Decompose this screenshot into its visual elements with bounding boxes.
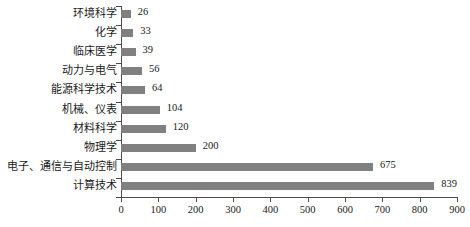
bar <box>121 163 373 171</box>
category-label: 材料科学 <box>0 121 121 135</box>
x-axis-tick-label: 200 <box>176 203 216 217</box>
category-label: 能源科学技术 <box>0 82 121 96</box>
bar-row: 64能源科学技术 <box>121 82 457 101</box>
y-axis-tick <box>116 121 121 122</box>
y-axis-tick <box>116 44 121 45</box>
x-axis-tick <box>345 198 346 202</box>
bar <box>121 29 133 37</box>
x-axis-tick <box>382 198 383 202</box>
bar-value-label: 120 <box>173 120 189 134</box>
x-axis-tick <box>121 198 122 202</box>
bar-row: 839计算技术 <box>121 178 457 197</box>
bar <box>121 106 160 114</box>
bar-row: 39临床医学 <box>121 44 457 63</box>
bar <box>121 48 136 56</box>
y-axis-tick <box>116 178 121 179</box>
y-axis-tick <box>116 102 121 103</box>
category-label: 化学 <box>0 25 121 39</box>
category-label: 计算技术 <box>0 178 121 192</box>
category-label: 电子、通信与自动控制 <box>0 159 121 173</box>
bar <box>121 144 196 152</box>
bar-row: 120材料科学 <box>121 121 457 140</box>
x-axis-tick <box>233 198 234 202</box>
x-axis-tick <box>270 198 271 202</box>
category-label: 环境科学 <box>0 6 121 20</box>
bar-row: 56动力与电气 <box>121 63 457 82</box>
bar <box>121 125 166 133</box>
y-axis-tick <box>116 6 121 7</box>
bar <box>121 67 142 75</box>
x-axis-tick <box>420 198 421 202</box>
bar <box>121 86 145 94</box>
x-axis-tick-label: 500 <box>288 203 328 217</box>
bar-value-label: 64 <box>152 81 163 95</box>
bar-row: 104机械、仪表 <box>121 102 457 121</box>
bar-row: 200物理学 <box>121 140 457 159</box>
x-axis-tick-label: 100 <box>138 203 178 217</box>
bar-value-label: 675 <box>380 158 396 172</box>
bar-row: 33化学 <box>121 25 457 44</box>
bar-chart: 26环境科学33化学39临床医学56动力与电气64能源科学技术104机械、仪表1… <box>0 0 470 227</box>
x-axis-tick-label: 700 <box>362 203 402 217</box>
category-label: 机械、仪表 <box>0 102 121 116</box>
bar-value-label: 26 <box>138 5 149 19</box>
x-axis-line <box>121 197 458 198</box>
bar-row: 26环境科学 <box>121 6 457 25</box>
bar-value-label: 56 <box>149 62 160 76</box>
bar-value-label: 839 <box>441 177 457 191</box>
bar-row: 675电子、通信与自动控制 <box>121 159 457 178</box>
category-label: 动力与电气 <box>0 63 121 77</box>
plot-area: 26环境科学33化学39临床医学56动力与电气64能源科学技术104机械、仪表1… <box>121 6 457 197</box>
bar-value-label: 33 <box>140 24 151 38</box>
x-axis-tick-label: 400 <box>250 203 290 217</box>
bar <box>121 182 434 190</box>
x-axis-tick-label: 900 <box>437 203 470 217</box>
bar-value-label: 39 <box>143 43 154 57</box>
x-axis-tick-label: 800 <box>400 203 440 217</box>
category-label: 临床医学 <box>0 44 121 58</box>
category-label: 物理学 <box>0 140 121 154</box>
x-axis-tick-label: 600 <box>325 203 365 217</box>
bar <box>121 10 131 18</box>
y-axis-tick <box>116 82 121 83</box>
x-axis-tick-label: 0 <box>101 203 141 217</box>
y-axis-tick <box>116 159 121 160</box>
bar-value-label: 104 <box>167 101 183 115</box>
x-axis-tick <box>158 198 159 202</box>
bar-value-label: 200 <box>203 139 219 153</box>
y-axis-tick <box>116 25 121 26</box>
x-axis-tick <box>308 198 309 202</box>
y-axis-tick <box>116 140 121 141</box>
x-axis-tick-label: 300 <box>213 203 253 217</box>
x-axis-tick <box>457 198 458 202</box>
x-axis-tick <box>196 198 197 202</box>
y-axis-tick <box>116 63 121 64</box>
